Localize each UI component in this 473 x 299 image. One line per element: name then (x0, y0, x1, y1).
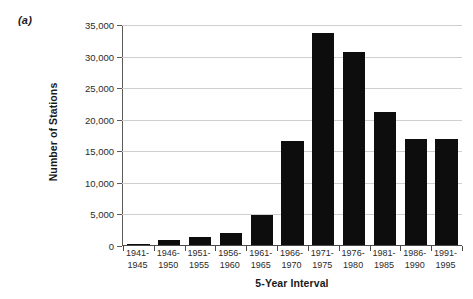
bar (374, 112, 396, 245)
bar (251, 215, 273, 245)
y-tick-label: 10,000 (85, 177, 114, 188)
plot-area: 05,00010,00015,00020,00025,00030,00035,0… (122, 25, 462, 246)
x-tick-label-line: 1985 (369, 260, 400, 272)
y-tick-mark (117, 183, 122, 184)
x-tick-label-line: 1981- (369, 248, 400, 260)
x-tick-label: 1986-1990 (399, 248, 430, 271)
x-tick-label-line: 1995 (430, 260, 461, 272)
gridline (122, 246, 462, 247)
bar (343, 52, 365, 245)
x-tick-label-line: 1991- (430, 248, 461, 260)
bar (405, 139, 427, 245)
y-tick-label: 35,000 (85, 20, 114, 31)
x-tick-label: 1981-1985 (369, 248, 400, 271)
y-tick-mark (117, 214, 122, 215)
x-tick-label: 1956-1960 (214, 248, 245, 271)
bar (127, 244, 149, 245)
bar (220, 233, 242, 245)
y-tick-label: 0 (109, 241, 114, 252)
y-tick-mark (117, 25, 122, 26)
bar (158, 240, 180, 245)
x-tick-label-line: 1945 (122, 260, 153, 272)
x-tick-mark (462, 246, 463, 251)
bar (435, 139, 457, 245)
bar (312, 33, 334, 245)
x-tick-label-line: 1951- (184, 248, 215, 260)
x-tick-label-line: 1946- (153, 248, 184, 260)
y-tick-mark (117, 246, 122, 247)
x-tick-label-line: 1965 (245, 260, 276, 272)
x-tick-label: 1971-1975 (307, 248, 338, 271)
x-tick-label-line: 1980 (338, 260, 369, 272)
x-tick-label: 1976-1980 (338, 248, 369, 271)
y-tick-label: 25,000 (85, 83, 114, 94)
x-axis-labels: 1941-19451946-19501951-19551956-19601961… (122, 248, 462, 278)
bar (189, 237, 211, 245)
x-tick-label-line: 1956- (214, 248, 245, 260)
y-tick-label: 5,000 (90, 209, 114, 220)
x-tick-label-line: 1966- (276, 248, 307, 260)
y-tick-label: 20,000 (85, 114, 114, 125)
y-tick-mark (117, 88, 122, 89)
x-axis-title: 5-Year Interval (122, 277, 462, 289)
x-tick-label-line: 1986- (399, 248, 430, 260)
x-tick-label: 1946-1950 (153, 248, 184, 271)
x-tick-label-line: 1976- (338, 248, 369, 260)
y-tick-label: 30,000 (85, 51, 114, 62)
x-tick-label: 1961-1965 (245, 248, 276, 271)
y-tick-mark (117, 120, 122, 121)
y-tick-label: 15,000 (85, 146, 114, 157)
x-tick-label-line: 1971- (307, 248, 338, 260)
x-tick-label: 1966-1970 (276, 248, 307, 271)
x-tick-label: 1991-1995 (430, 248, 461, 271)
panel-label: (a) (18, 14, 32, 26)
x-tick-label-line: 1990 (399, 260, 430, 272)
x-tick-label-line: 1941- (122, 248, 153, 260)
x-tick-label-line: 1955 (184, 260, 215, 272)
bar (281, 141, 303, 245)
x-tick-label: 1941-1945 (122, 248, 153, 271)
y-tick-mark (117, 151, 122, 152)
x-tick-label-line: 1970 (276, 260, 307, 272)
x-tick-label-line: 1961- (245, 248, 276, 260)
y-axis-title: Number of Stations (44, 42, 62, 222)
x-tick-label-line: 1960 (214, 260, 245, 272)
x-tick-label: 1951-1955 (184, 248, 215, 271)
x-tick-label-line: 1975 (307, 260, 338, 272)
x-tick-label-line: 1950 (153, 260, 184, 272)
y-tick-mark (117, 57, 122, 58)
bar-series (123, 25, 462, 245)
y-axis-title-text: Number of Stations (47, 83, 59, 182)
